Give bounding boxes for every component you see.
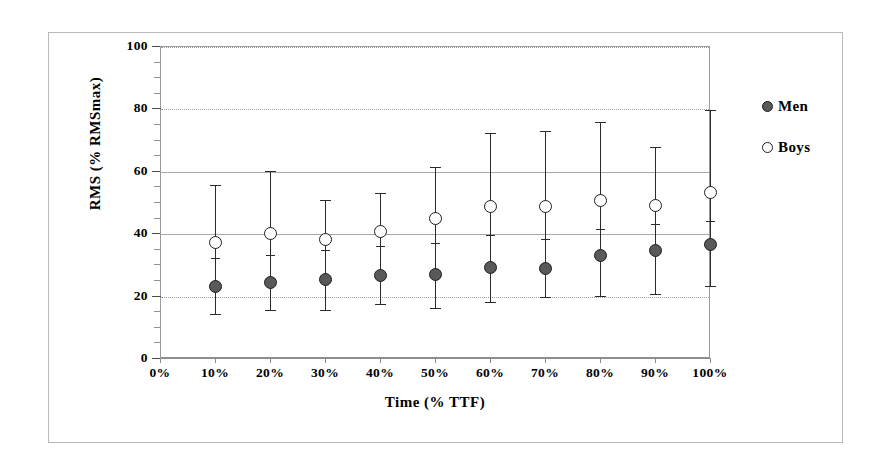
y-axis-title: RMS (% RMSmax)	[87, 44, 104, 244]
data-point-boys[interactable]	[264, 227, 277, 240]
error-bar-line	[655, 147, 656, 294]
x-axis-tick-label: 50%	[405, 366, 465, 380]
data-point-men[interactable]	[374, 269, 387, 282]
error-bar-cap-upper	[705, 110, 716, 111]
x-axis-tick	[600, 358, 601, 363]
error-bar-cap-inner	[266, 255, 275, 256]
x-axis-tick	[380, 358, 381, 363]
error-bar-cap-lower	[430, 308, 441, 309]
data-point-boys[interactable]	[209, 236, 222, 249]
error-bar-cap-inner	[431, 243, 440, 244]
gridline	[161, 47, 709, 48]
error-bar-cap-upper	[540, 131, 551, 132]
error-bar-cap-upper	[375, 193, 386, 194]
x-axis-tick-label: 90%	[625, 366, 685, 380]
x-axis-tick	[215, 358, 216, 363]
data-point-men[interactable]	[429, 268, 442, 281]
gridline	[161, 109, 709, 110]
error-bar-cap-inner	[706, 221, 715, 222]
data-point-men[interactable]	[649, 244, 662, 257]
x-axis-tick-label: 0%	[130, 366, 190, 380]
data-point-boys[interactable]	[594, 194, 607, 207]
x-axis-tick-label: 30%	[295, 366, 355, 380]
y-axis-tick-label: 0	[104, 351, 148, 365]
data-point-men[interactable]	[704, 238, 717, 251]
x-axis-tick-label: 20%	[240, 366, 300, 380]
data-point-men[interactable]	[594, 249, 607, 262]
x-axis-tick	[545, 358, 546, 363]
error-bar-cap-inner	[596, 229, 605, 230]
error-bar-cap-lower	[265, 310, 276, 311]
y-axis-tick-label: 60	[104, 164, 148, 178]
error-bar-cap-inner	[321, 250, 330, 251]
error-bar-cap-upper	[210, 185, 221, 186]
data-point-men[interactable]	[539, 262, 552, 275]
error-bar-cap-upper	[320, 200, 331, 201]
x-axis-tick	[325, 358, 326, 363]
data-point-men[interactable]	[209, 280, 222, 293]
x-axis-tick-label: 80%	[570, 366, 630, 380]
data-point-boys[interactable]	[429, 212, 442, 225]
y-axis-inner-hairline	[160, 46, 161, 358]
error-bar-line	[490, 133, 491, 301]
legend-label-boys: Boys	[778, 139, 810, 156]
data-point-men[interactable]	[484, 261, 497, 274]
legend-item-boys[interactable]: Boys	[762, 137, 840, 157]
data-point-men[interactable]	[319, 273, 332, 286]
x-axis-tick	[160, 358, 161, 363]
data-point-men[interactable]	[264, 276, 277, 289]
x-axis-tick-label: 40%	[350, 366, 410, 380]
error-bar-cap-lower	[705, 286, 716, 287]
x-axis-tick-label: 60%	[460, 366, 520, 380]
error-bar-cap-lower	[375, 304, 386, 305]
y-axis-tick-label: 20	[104, 289, 148, 303]
open-circle-icon	[762, 142, 773, 153]
error-bar-cap-inner	[541, 239, 550, 240]
error-bar-cap-upper	[595, 122, 606, 123]
error-bar-line	[325, 200, 326, 310]
x-axis-tick	[710, 358, 711, 363]
error-bar-cap-lower	[595, 296, 606, 297]
error-bar-cap-lower	[485, 302, 496, 303]
error-bar-line	[215, 185, 216, 314]
data-point-boys[interactable]	[484, 200, 497, 213]
legend-label-men: Men	[778, 98, 808, 115]
legend-item-men[interactable]: Men	[762, 96, 840, 116]
data-point-boys[interactable]	[704, 186, 717, 199]
error-bar-cap-lower	[320, 310, 331, 311]
error-bar-cap-inner	[376, 246, 385, 247]
data-point-boys[interactable]	[374, 225, 387, 238]
error-bar-cap-upper	[485, 133, 496, 134]
error-bar-cap-lower	[210, 314, 221, 315]
x-axis-tick	[655, 358, 656, 363]
legend: Men Boys	[762, 96, 840, 178]
error-bar-cap-lower	[540, 297, 551, 298]
x-axis-tick-label: 100%	[680, 366, 740, 380]
error-bar-cap-upper	[430, 167, 441, 168]
x-axis-tick	[490, 358, 491, 363]
error-bar-line	[270, 171, 271, 309]
error-bar-cap-upper	[265, 171, 276, 172]
x-axis-tick-label: 10%	[185, 366, 245, 380]
error-bar-cap-lower	[650, 294, 661, 295]
error-bar-cap-inner	[651, 224, 660, 225]
x-axis-tick	[435, 358, 436, 363]
data-point-boys[interactable]	[649, 199, 662, 212]
filled-circle-icon	[762, 101, 773, 112]
error-bar-line	[435, 167, 436, 308]
data-point-boys[interactable]	[319, 233, 332, 246]
y-axis-tick-label: 80	[104, 101, 148, 115]
error-bar-cap-inner	[486, 235, 495, 236]
y-axis-tick-label: 40	[104, 226, 148, 240]
y-axis-tick-label: 100	[104, 39, 148, 53]
x-axis-tick	[270, 358, 271, 363]
error-bar-line	[380, 193, 381, 304]
error-bar-cap-inner	[211, 258, 220, 259]
error-bar-cap-upper	[650, 147, 661, 148]
x-axis-tick-label: 70%	[515, 366, 575, 380]
figure-root: 020406080100 0%10%20%30%40%50%60%70%80%9…	[0, 0, 887, 464]
data-point-boys[interactable]	[539, 200, 552, 213]
x-axis-title: Time (% TTF)	[160, 394, 710, 411]
error-bar-line	[600, 122, 601, 296]
